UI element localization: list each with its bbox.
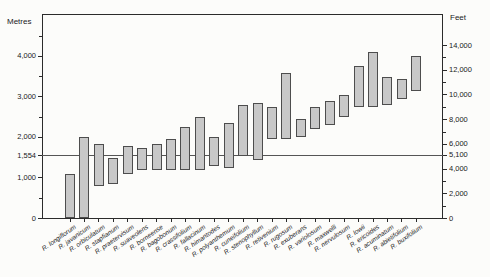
- x-axis-tick: [228, 219, 229, 223]
- left-axis-tick-label: 1,000: [2, 174, 36, 182]
- range-bar: [267, 107, 277, 139]
- x-axis-tick: [373, 219, 374, 223]
- x-axis-tick: [70, 219, 71, 223]
- right-axis-minor-tick: [443, 107, 446, 108]
- x-axis-tick: [358, 219, 359, 223]
- range-bar: [339, 95, 349, 117]
- left-axis-tick-label: 2,000: [2, 133, 36, 141]
- x-axis-tick: [257, 219, 258, 223]
- range-bar: [296, 119, 306, 137]
- range-bar: [152, 144, 162, 170]
- x-axis-tick: [401, 219, 402, 223]
- x-axis-tick: [127, 219, 128, 223]
- range-bar: [137, 148, 147, 170]
- right-axis-minor-tick: [443, 57, 446, 58]
- range-bar: [180, 127, 190, 170]
- left-axis-minor-tick: [39, 117, 42, 118]
- x-axis-tick: [171, 219, 172, 223]
- right-axis-tick: [443, 193, 447, 194]
- x-axis-tick: [199, 219, 200, 223]
- x-axis-tick: [98, 219, 99, 223]
- x-axis-tick: [286, 219, 287, 223]
- range-bar: [123, 146, 133, 174]
- right-axis-minor-tick: [443, 206, 446, 207]
- right-axis-tick: [443, 218, 447, 219]
- x-axis-tick: [344, 219, 345, 223]
- left-axis-title: Metres: [7, 17, 31, 26]
- right-axis-tick-label: 4,000: [449, 165, 468, 173]
- right-axis-tick-label: 5,100: [449, 151, 468, 159]
- right-axis-tick: [443, 70, 447, 71]
- range-bar: [281, 73, 291, 140]
- range-bar: [65, 174, 75, 219]
- range-bar: [253, 103, 263, 160]
- range-bar: [310, 107, 320, 129]
- right-axis-tick-label: 10,000: [449, 91, 472, 99]
- right-axis-tick-label: 0: [449, 215, 453, 223]
- left-axis-minor-tick: [39, 36, 42, 37]
- range-bar: [166, 139, 176, 169]
- right-axis-tick-label: 6,000: [449, 140, 468, 148]
- right-axis-minor-tick: [443, 181, 446, 182]
- right-axis-tick: [443, 169, 447, 170]
- right-axis-minor-tick: [443, 82, 446, 83]
- left-axis-tick-label: 1,554: [2, 152, 36, 160]
- right-axis-tick: [443, 94, 447, 95]
- x-axis-tick: [272, 219, 273, 223]
- x-axis-tick: [185, 219, 186, 223]
- left-axis-tick: [38, 177, 42, 178]
- right-axis-tick: [443, 45, 447, 46]
- range-bar: [382, 77, 392, 105]
- range-bar: [79, 137, 89, 218]
- right-axis-tick: [443, 144, 447, 145]
- range-bar: [108, 158, 118, 184]
- left-axis-tick: [38, 218, 42, 219]
- x-axis-tick: [214, 219, 215, 223]
- range-bar: [354, 66, 364, 107]
- right-axis-tick-label: 12,000: [449, 66, 472, 74]
- right-axis-title: Feet: [450, 13, 466, 22]
- left-axis-tick: [38, 56, 42, 57]
- right-axis-tick-label: 2,000: [449, 190, 468, 198]
- range-bar: [397, 79, 407, 99]
- range-bar: [238, 105, 248, 156]
- altitudinal-range-chart: Metres Feet 01,0001,5542,0003,0004,00002…: [0, 0, 490, 277]
- x-axis-tick: [243, 219, 244, 223]
- range-bar: [368, 52, 378, 107]
- right-axis-tick: [443, 155, 447, 156]
- left-axis-tick-label: 3,000: [2, 93, 36, 101]
- x-axis-tick: [84, 219, 85, 223]
- x-axis-tick: [329, 219, 330, 223]
- x-axis-tick: [387, 219, 388, 223]
- right-axis-tick: [443, 119, 447, 120]
- left-axis-minor-tick: [39, 76, 42, 77]
- range-bar: [411, 56, 421, 90]
- x-axis-tick: [300, 219, 301, 223]
- left-axis-tick-label: 4,000: [2, 52, 36, 60]
- range-bar: [209, 137, 219, 165]
- right-axis-minor-tick: [443, 132, 446, 133]
- x-axis-tick: [315, 219, 316, 223]
- right-axis-tick-label: 8,000: [449, 116, 468, 124]
- left-axis-tick-label: 0: [2, 215, 36, 223]
- left-axis-tick: [38, 96, 42, 97]
- range-bar: [195, 117, 205, 170]
- x-axis-tick: [142, 219, 143, 223]
- left-axis-tick: [38, 137, 42, 138]
- x-axis-tick: [113, 219, 114, 223]
- x-axis-tick: [416, 219, 417, 223]
- range-bar: [224, 123, 234, 168]
- x-axis-tick: [156, 219, 157, 223]
- range-bar: [325, 101, 335, 125]
- left-axis-minor-tick: [39, 198, 42, 199]
- right-axis-tick-label: 14,000: [449, 42, 472, 50]
- range-bar: [94, 144, 104, 187]
